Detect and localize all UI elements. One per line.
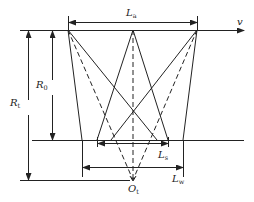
label-Rt: Rt xyxy=(10,98,20,110)
label-Ot: Ot xyxy=(128,184,139,196)
label-Lw: Lw xyxy=(172,174,184,186)
ray-left-cross xyxy=(68,30,157,140)
label-R0: R0 xyxy=(36,80,48,92)
ray-center-right xyxy=(133,30,168,140)
label-Ls: Ls xyxy=(158,150,168,162)
ray-right-cross xyxy=(111,30,197,140)
label-La: La xyxy=(126,8,137,20)
diagram-svg xyxy=(0,0,254,202)
ray-center-left xyxy=(97,30,133,140)
diagram-canvas: La v R0 Rt Ls Lw Ot xyxy=(0,0,254,202)
label-v: v xyxy=(237,17,243,27)
